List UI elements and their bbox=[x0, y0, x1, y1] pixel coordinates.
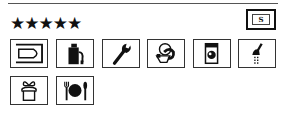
badge-label: S bbox=[252, 14, 270, 25]
fuel-pump-icon bbox=[57, 40, 93, 67]
facility-shower bbox=[238, 39, 276, 68]
shower-icon bbox=[239, 40, 275, 67]
category-badge: S bbox=[246, 9, 276, 30]
facility-laundry bbox=[193, 39, 231, 68]
toilet-icon bbox=[148, 40, 184, 67]
restaurant-icon bbox=[57, 77, 93, 104]
facility-toilet bbox=[147, 39, 185, 68]
top-divider bbox=[8, 3, 278, 4]
facility-boat-slip bbox=[10, 39, 48, 68]
wrench-repair-icon bbox=[103, 40, 139, 67]
facility-restaurant bbox=[56, 76, 94, 105]
star-rating: ★★★★★ bbox=[10, 13, 81, 33]
facility-fuel bbox=[56, 39, 94, 68]
facility-repair bbox=[102, 39, 140, 68]
washing-machine-icon bbox=[194, 40, 230, 67]
facility-provisions bbox=[10, 76, 48, 105]
shop-provisions-icon bbox=[11, 77, 47, 104]
boat-slip-icon bbox=[11, 40, 47, 67]
